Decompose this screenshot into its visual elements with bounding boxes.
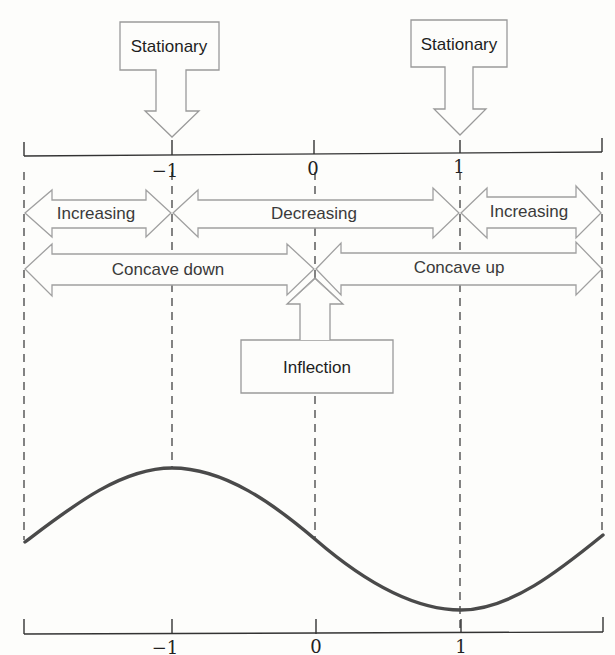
bottom-tick-label-1: 1 xyxy=(455,636,466,655)
bottom-tick-label-minus-1: −1 xyxy=(152,637,179,655)
top-tick-label-0: 0 xyxy=(307,158,318,179)
top-axis xyxy=(24,138,602,156)
bottom-tick-label-0: 0 xyxy=(310,636,321,655)
function-curve xyxy=(25,468,603,610)
top-tick-label-minus-1: −1 xyxy=(152,160,179,181)
label-increasing-right: Increasing xyxy=(490,202,568,222)
label-increasing-left: Increasing xyxy=(57,204,135,224)
guide-lines xyxy=(24,172,602,630)
label-concave-up: Concave up xyxy=(414,258,505,278)
diagram-canvas xyxy=(0,0,615,655)
bottom-axis xyxy=(24,617,603,634)
calculus-diagram: Stationary Stationary Inflection Increas… xyxy=(0,0,615,655)
top-tick-label-1: 1 xyxy=(453,156,464,177)
stationary-label-right: Stationary xyxy=(421,35,498,55)
label-decreasing: Decreasing xyxy=(271,204,357,224)
stationary-label-left: Stationary xyxy=(131,37,208,57)
inflection-label: Inflection xyxy=(283,358,351,378)
label-concave-down: Concave down xyxy=(112,260,224,280)
